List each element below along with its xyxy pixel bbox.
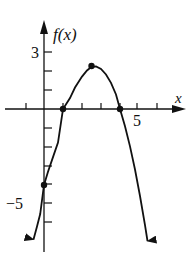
x-ticks xyxy=(26,103,157,109)
x-intercept-point-4 xyxy=(117,106,123,112)
x-axis-label: x xyxy=(174,90,182,106)
vertex-point xyxy=(88,63,94,69)
y-axis-label: f(x) xyxy=(53,25,77,44)
y-tick-label-neg5: −5 xyxy=(6,195,23,212)
x-tick-label-5: 5 xyxy=(133,112,141,129)
function-graph: f(x) x 3 5 −5 xyxy=(0,0,193,253)
y-ticks xyxy=(44,52,52,222)
x-intercept-point-1 xyxy=(60,106,66,112)
x-axis xyxy=(5,105,186,113)
y-intercept-point xyxy=(41,182,47,188)
parabola-curve xyxy=(34,66,148,241)
y-axis xyxy=(40,20,48,252)
y-tick-label-3: 3 xyxy=(31,44,39,61)
